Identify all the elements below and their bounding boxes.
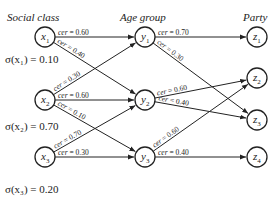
- node-z1: z1: [247, 27, 267, 47]
- edge-label-y3-z4: cer = 0.40: [158, 148, 189, 157]
- edge-label-x2-y3: cer = 0.10: [56, 99, 87, 122]
- edge-label-y3-z2: cer = 0.60: [150, 124, 180, 149]
- edge-label-y1-z3: cer = 0.30: [155, 38, 185, 64]
- node-x2: x2: [35, 90, 55, 110]
- edge-label-x1-y2: cer = 0.40: [56, 36, 87, 60]
- node-y3: y3: [135, 147, 155, 167]
- node-x1: x1: [35, 27, 55, 47]
- node-y1: y1: [135, 27, 155, 47]
- flow-graph: cer = 0.60cer = 0.40cer = 0.30cer = 0.60…: [0, 0, 280, 207]
- node-z4: z4: [247, 147, 267, 167]
- node-z2: z2: [247, 68, 267, 88]
- edge-label-x1-y1: cer = 0.60: [58, 28, 89, 37]
- edge-label-x2-y1: cer = 0.30: [51, 69, 82, 93]
- node-z3: z3: [247, 110, 267, 130]
- edge-label-x3-y3: cer = 0.30: [58, 148, 89, 157]
- node-y2: y2: [135, 90, 155, 110]
- edge-label-y1-z1: cer = 0.70: [158, 28, 189, 37]
- sigma-x1: σ(x₁) = 0.10: [5, 53, 59, 65]
- sigma-x3: σ(x₃) = 0.20: [5, 183, 59, 195]
- node-x3: x3: [35, 147, 55, 167]
- sigma-x2: σ(x₂) = 0.70: [5, 120, 59, 132]
